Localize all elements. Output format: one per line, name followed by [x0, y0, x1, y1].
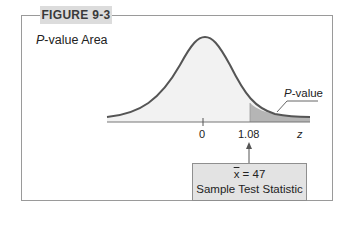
stat-value-line: x = 47 [193, 167, 306, 182]
sample-test-statistic-box: x = 47 Sample Test Statistic [192, 163, 307, 201]
stat-value: = 47 [239, 168, 265, 180]
p-value-label-rest: -value [292, 87, 323, 99]
stat-caption: Sample Test Statistic [193, 182, 306, 197]
p-value-label: P-value [284, 87, 323, 99]
arrow-head-icon [246, 142, 252, 149]
tick-label-zero: 0 [199, 128, 205, 140]
z-axis-label: z [297, 128, 303, 140]
tick-label-1-08: 1.08 [238, 128, 259, 140]
p-value-leader [277, 101, 318, 112]
p-value-italic-p: P [284, 87, 292, 99]
